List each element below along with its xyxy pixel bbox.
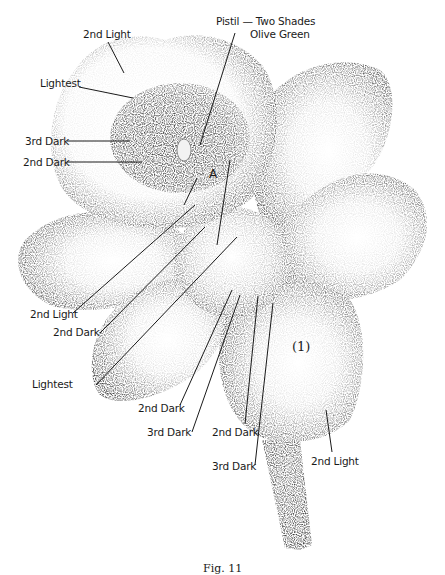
label-left-2nd-dark: 2nd Dark (53, 326, 100, 338)
label-bottom-3rd-dark-b: 3rd Dark (212, 460, 256, 472)
label-bottom-3rd-dark-a: 3rd Dark (147, 426, 191, 438)
figure-caption: Fig. 11 (203, 562, 242, 575)
label-top-lightest: Lightest (40, 77, 81, 89)
label-top-2nd-dark: 2nd Dark (23, 156, 70, 168)
petal-number: (1) (292, 339, 310, 354)
trumpet-inner (110, 83, 250, 193)
label-left-2nd-light: 2nd Light (30, 308, 78, 320)
label-top-2nd-light: 2nd Light (83, 28, 131, 40)
pistil (177, 139, 191, 161)
label-pistil-line2: Olive Green (250, 28, 310, 40)
label-left-lightest: Lightest (32, 378, 73, 390)
label-bottom-2nd-light: 2nd Light (311, 455, 359, 467)
stem (262, 440, 312, 550)
marker-a: A (209, 167, 218, 181)
label-bottom-2nd-dark-a: 2nd Dark (138, 402, 185, 414)
flower-stipple (18, 35, 427, 550)
label-pistil-line1: Pistil — Two Shades (216, 15, 315, 27)
label-top-3rd-dark: 3rd Dark (25, 135, 69, 147)
label-bottom-2nd-dark-b: 2nd Dark (212, 426, 259, 438)
